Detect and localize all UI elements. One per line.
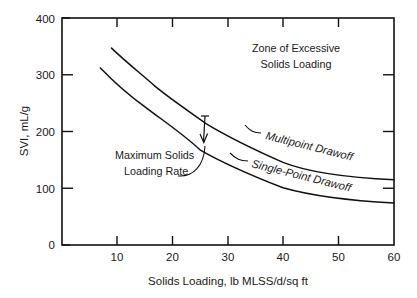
- x-tick-label-30: 30: [222, 251, 235, 263]
- single-point-label-leader: [230, 153, 248, 161]
- y-axis-title: SVI, mL/g: [18, 106, 30, 157]
- x-tick-label-20: 20: [166, 251, 179, 263]
- x-tick-label-10: 10: [111, 251, 124, 263]
- y-axis-ticks-right: [383, 75, 394, 189]
- curve-label-multipoint-drawoff: Multipoint Drawoff: [265, 129, 357, 163]
- x-tick-label-40: 40: [277, 251, 290, 263]
- x-tick-label-60: 60: [388, 251, 401, 263]
- y-tick-label-300: 300: [36, 69, 55, 81]
- multipoint-label-leader: [245, 125, 261, 133]
- y-tick-label-200: 200: [36, 126, 55, 138]
- y-tick-label-0: 0: [49, 239, 55, 251]
- y-axis-ticks: [62, 18, 73, 245]
- x-axis-ticks-top: [117, 18, 339, 27]
- y-tick-label-400: 400: [36, 13, 55, 25]
- y-tick-label-100: 100: [36, 183, 55, 195]
- zone-note-line1: Zone of Excessive: [252, 42, 340, 54]
- x-tick-label-50: 50: [332, 251, 345, 263]
- max-solids-note-line2: Loading Rate: [124, 165, 188, 177]
- max-solids-note-line1: Maximum Solids: [115, 149, 195, 161]
- svi-solids-loading-chart: 0 100 200 300 400 10 20 30 40 50 60 Soli…: [0, 0, 417, 298]
- plot-frame: [62, 18, 394, 245]
- chart-figure: 0 100 200 300 400 10 20 30 40 50 60 Soli…: [0, 0, 417, 298]
- x-axis-title: Solids Loading, lb MLSS/d/sq ft: [148, 275, 309, 287]
- x-axis-ticks: [117, 236, 339, 245]
- zone-note-line2: Solids Loading: [261, 58, 332, 70]
